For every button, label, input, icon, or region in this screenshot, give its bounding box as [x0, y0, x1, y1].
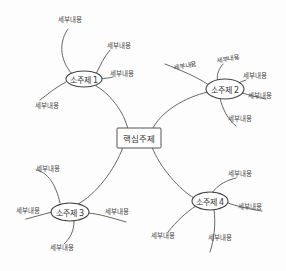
edge-sub4-d4: [210, 209, 215, 252]
edge-central-sub4: [152, 147, 194, 198]
subtopic-3-label: 소주제 3: [56, 207, 84, 218]
detail-4-4: 세부내용: [208, 232, 231, 242]
subtopic-2-label: 소주제 2: [211, 84, 239, 95]
edge-central-sub1: [96, 86, 128, 130]
detail-3-4: 세부내용: [50, 242, 73, 252]
detail-2-3: 세부내용: [243, 70, 266, 80]
detail-3-1: 세부내용: [36, 163, 59, 173]
edge-sub1-d1: [62, 29, 72, 74]
mind-map-canvas: 핵심주제 소주제 1 소주제 2 소주제 3 소주제 4 세부내용 세부내용 세…: [0, 0, 286, 271]
central-topic-label: 핵심주제: [123, 132, 154, 144]
detail-1-2: 세부내용: [107, 40, 130, 50]
subtopic-4-label: 소주제 4: [196, 196, 224, 207]
subtopic-1-label: 소주제 1: [70, 74, 98, 85]
detail-4-2: 세부내용: [238, 201, 261, 211]
detail-3-2: 세부내용: [16, 205, 39, 215]
detail-1-4: 세부내용: [35, 100, 58, 110]
edge-sub4-d3: [168, 206, 196, 232]
detail-2-4: 세부내용: [248, 90, 271, 100]
detail-3-3: 세부내용: [105, 206, 128, 216]
detail-2-5: 세부내용: [228, 113, 251, 123]
detail-1-3: 세부내용: [110, 68, 133, 78]
edge-sub1-d2: [96, 50, 110, 74]
detail-4-3: 세부내용: [151, 230, 174, 240]
edge-sub3-d4: [64, 221, 74, 244]
edge-sub4-d1: [212, 178, 236, 193]
edge-central-sub3: [78, 147, 123, 204]
edge-sub3-d1: [36, 170, 60, 203]
edge-sub1-d4: [40, 82, 66, 100]
detail-1-1: 세부내용: [58, 14, 81, 24]
detail-4-1: 세부내용: [228, 168, 251, 178]
edge-central-sub2: [152, 92, 208, 130]
